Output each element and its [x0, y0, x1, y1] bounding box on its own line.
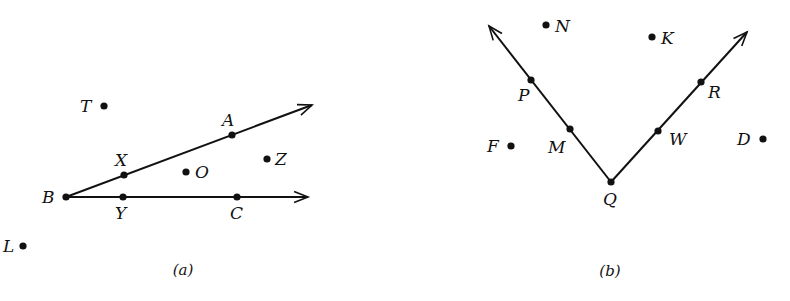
point-label-q: Q: [603, 189, 617, 209]
point-a: [228, 131, 235, 138]
point-x: [120, 171, 127, 178]
point-label-x: X: [113, 150, 128, 170]
point-label-n: N: [554, 16, 571, 36]
ray-QP: [489, 26, 611, 182]
point-p: [527, 76, 534, 83]
point-t: [100, 102, 107, 109]
figure-caption: (b): [599, 262, 620, 280]
point-label-f: F: [486, 136, 500, 156]
point-label-m: M: [547, 137, 566, 157]
point-label-a: A: [220, 110, 234, 130]
point-b: [62, 193, 69, 200]
point-label-d: D: [736, 129, 751, 149]
figure-b: QMPWRNKFD(b): [486, 16, 767, 280]
ray-QR: [611, 32, 747, 182]
point-z: [263, 155, 270, 162]
point-label-k: K: [660, 28, 675, 48]
point-label-b: B: [41, 187, 55, 207]
point-y: [119, 193, 126, 200]
point-w: [654, 127, 661, 134]
point-n: [542, 21, 549, 28]
point-r: [697, 78, 704, 85]
point-l: [19, 242, 26, 249]
point-label-w: W: [669, 129, 688, 149]
point-label-y: Y: [115, 203, 128, 223]
point-label-c: C: [230, 203, 243, 223]
figure-caption: (a): [173, 261, 194, 279]
point-label-r: R: [707, 82, 721, 102]
figure-a: BXAYCTOZL(a): [2, 96, 312, 279]
point-label-p: P: [517, 85, 530, 105]
point-label-o: O: [195, 162, 209, 182]
point-c: [233, 193, 240, 200]
point-o: [182, 168, 189, 175]
point-label-t: T: [80, 96, 93, 116]
point-label-l: L: [2, 236, 14, 256]
point-d: [759, 135, 766, 142]
point-q: [607, 178, 614, 185]
point-m: [566, 125, 573, 132]
point-f: [507, 142, 514, 149]
point-k: [648, 33, 655, 40]
geometry-diagram: BXAYCTOZL(a) QMPWRNKFD(b): [0, 0, 790, 301]
point-label-z: Z: [274, 149, 288, 169]
